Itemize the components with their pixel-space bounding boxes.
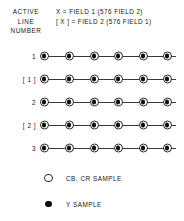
sample-point xyxy=(90,75,99,84)
sample-point xyxy=(65,144,74,153)
row-label-line-2: 2 xyxy=(0,99,36,106)
caption-line-3: NUMBER xyxy=(0,26,52,36)
scan-line xyxy=(40,102,176,103)
scan-line xyxy=(40,56,176,57)
sample-point xyxy=(65,98,74,107)
field-legend: X = FIELD 1 (576 FIELD 2) [ X ] = FIELD … xyxy=(56,7,184,26)
sample-point xyxy=(65,75,74,84)
caption-line-2: LINE xyxy=(0,17,52,27)
sample-row xyxy=(40,97,176,108)
sample-point xyxy=(163,121,172,130)
sample-point xyxy=(40,121,49,130)
legend-label-cbcr: CB, CR SAMPLE xyxy=(66,175,122,182)
sample-point xyxy=(90,144,99,153)
row-label-line-1: 1 xyxy=(0,53,36,60)
legend-label-y: Y SAMPLE xyxy=(66,201,102,208)
row-label-line-1-alt: [ 1 ] xyxy=(0,76,36,83)
sample-point xyxy=(114,144,123,153)
sample-point xyxy=(65,121,74,130)
sample-row xyxy=(40,74,176,85)
sampling-diagram: ACTIVE LINE NUMBER X = FIELD 1 (576 FIEL… xyxy=(0,0,184,221)
row-label-line-3: 3 xyxy=(0,145,36,152)
sample-point xyxy=(40,52,49,61)
sample-point xyxy=(90,52,99,61)
field-legend-line-1: X = FIELD 1 (576 FIELD 2) xyxy=(56,7,184,17)
sample-point xyxy=(139,98,148,107)
legend-item-y: Y SAMPLE xyxy=(42,198,102,210)
scan-line xyxy=(40,125,176,126)
sample-point xyxy=(114,52,123,61)
sample-point xyxy=(163,52,172,61)
sample-point xyxy=(163,75,172,84)
sample-row xyxy=(40,51,176,62)
sample-row xyxy=(40,120,176,131)
sample-point xyxy=(40,98,49,107)
sample-point xyxy=(163,98,172,107)
sample-point xyxy=(40,75,49,84)
legend-item-cbcr: CB, CR SAMPLE xyxy=(42,172,122,184)
sample-point xyxy=(139,75,148,84)
sample-point xyxy=(139,52,148,61)
sample-row xyxy=(40,143,176,154)
caption-line-1: ACTIVE xyxy=(0,7,52,17)
sample-point xyxy=(139,121,148,130)
sample-point xyxy=(65,52,74,61)
scan-line xyxy=(40,148,176,149)
sample-point xyxy=(139,144,148,153)
sample-point xyxy=(90,98,99,107)
sample-point xyxy=(40,144,49,153)
sample-point xyxy=(163,144,172,153)
active-line-number-caption: ACTIVE LINE NUMBER xyxy=(0,7,52,36)
sample-point xyxy=(90,121,99,130)
row-label-line-2-alt: [ 2 ] xyxy=(0,122,36,129)
sample-point xyxy=(114,98,123,107)
sample-point xyxy=(114,121,123,130)
scan-line xyxy=(40,79,176,80)
field-legend-line-2: [ X ] = FIELD 2 (576 FIELD 1) xyxy=(56,17,184,27)
sample-point xyxy=(114,75,123,84)
filled-circle-icon xyxy=(42,201,55,208)
open-circle-icon xyxy=(42,174,55,183)
